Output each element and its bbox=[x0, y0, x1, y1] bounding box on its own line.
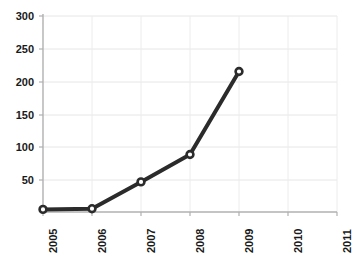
y-tick-label-200: 200 bbox=[4, 77, 34, 88]
x-tick-label-2010: 2010 bbox=[293, 229, 304, 253]
y-tick-label-300: 300 bbox=[4, 11, 34, 22]
data-point-marker bbox=[187, 151, 194, 158]
x-tick-label-2005: 2005 bbox=[48, 229, 59, 253]
x-tick-label-2006: 2006 bbox=[97, 229, 108, 253]
data-point-marker bbox=[236, 68, 243, 75]
data-point-marker bbox=[138, 179, 145, 186]
plot-area bbox=[0, 0, 358, 259]
data-point-marker bbox=[89, 205, 96, 212]
line-chart: 300 250 200 150 100 50 2005 2006 2007 20… bbox=[0, 0, 358, 259]
x-tick-label-2007: 2007 bbox=[146, 229, 157, 253]
data-point-marker bbox=[40, 206, 47, 213]
x-tick-label-2011: 2011 bbox=[342, 229, 353, 253]
y-tick-label-50: 50 bbox=[4, 175, 34, 186]
x-tick-label-2009: 2009 bbox=[244, 229, 255, 253]
y-tick-label-150: 150 bbox=[4, 110, 34, 121]
y-tick-label-100: 100 bbox=[4, 142, 34, 153]
y-tick-label-250: 250 bbox=[4, 44, 34, 55]
x-tick-label-2008: 2008 bbox=[195, 229, 206, 253]
